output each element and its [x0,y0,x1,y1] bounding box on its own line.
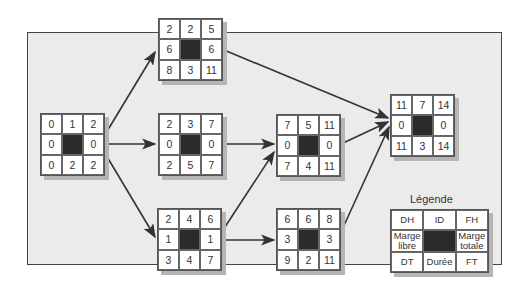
legend-title: Légende [410,193,453,205]
cell-dh: 6 [277,209,298,229]
cell-dt: 8 [159,60,180,80]
cell-dt: 9 [277,250,298,270]
cell-dt: 0 [41,155,62,175]
cell-fh: 11 [319,115,340,135]
cell-marge-totale: 0 [433,115,454,135]
cell-duration-top: 6 [298,209,319,229]
cell-duration-top: 5 [298,115,319,135]
cell-marge-libre: 0 [277,135,298,155]
cell-marge-libre: 0 [159,134,180,154]
cell-marge-libre: 6 [159,39,180,59]
legend-fh: FH [456,210,488,230]
legend-duree: Durée [423,252,455,272]
edge-d-end [341,122,388,144]
cell-duree: 4 [298,156,319,176]
node-a: 2 2 5 6 6 8 3 11 [158,18,223,81]
cell-id [298,135,319,155]
node-c: 2 4 6 1 1 3 4 7 [157,208,222,271]
cell-dh: 2 [159,19,180,39]
cell-id [298,229,319,249]
cell-id [62,134,83,154]
cell-duration-top: 4 [179,209,200,229]
cell-duration-top: 7 [412,95,433,115]
cell-fh: 2 [83,114,104,134]
node-d: 7 5 11 0 0 7 4 11 [276,114,341,177]
cell-marge-libre: 0 [391,115,412,135]
cell-fh: 5 [201,19,222,39]
cell-duree: 3 [180,60,201,80]
cell-ft: 2 [83,155,104,175]
cell-duree: 4 [179,250,200,270]
cell-dt: 7 [277,156,298,176]
edge-a-end [224,50,388,118]
cell-marge-totale: 0 [319,135,340,155]
cell-duration-top: 1 [62,114,83,134]
cell-ft: 14 [433,136,454,156]
cell-fh: 6 [200,209,221,229]
node-b: 2 3 7 0 0 2 5 7 [158,113,223,176]
cell-ft: 7 [201,155,222,175]
cell-marge-totale: 0 [201,134,222,154]
cell-id [179,229,200,249]
cell-duree: 5 [180,155,201,175]
cell-dt: 11 [391,136,412,156]
cell-marge-libre: 1 [158,229,179,249]
legend-marge-totale: Marge totale [456,230,488,252]
cell-dh: 11 [391,95,412,115]
cell-dh: 7 [277,115,298,135]
cell-marge-totale: 1 [200,229,221,249]
cell-dt: 2 [159,155,180,175]
cell-marge-totale: 3 [319,229,340,249]
cell-dt: 3 [158,250,179,270]
legend-dt: DT [391,252,423,272]
legend: DH ID FH Marge libre Marge totale DT Dur… [390,209,489,273]
cell-fh: 7 [201,114,222,134]
cell-duration-top: 3 [180,114,201,134]
legend-marge-libre: Marge libre [391,230,423,252]
legend-id-block [423,230,455,252]
cell-duree: 2 [62,155,83,175]
edge-c-d [223,152,274,230]
cell-ft: 11 [201,60,222,80]
legend-ft: FT [456,252,488,272]
cell-fh: 14 [433,95,454,115]
cell-id [412,115,433,135]
edge-start-a [106,52,155,133]
cell-ft: 11 [319,156,340,176]
cell-dh: 0 [41,114,62,134]
edge-e-end [341,127,389,232]
cell-duree: 2 [298,250,319,270]
node-start: 0 1 2 0 0 0 2 2 [40,113,105,176]
cell-marge-libre: 0 [41,134,62,154]
legend-id: ID [423,210,455,230]
legend-dh: DH [391,210,423,230]
cell-id [180,134,201,154]
cell-duration-top: 2 [180,19,201,39]
cell-id [180,39,201,59]
cell-marge-totale: 6 [201,39,222,59]
node-end: 11 7 14 0 0 11 3 14 [390,94,455,157]
node-e: 6 6 8 3 3 9 2 11 [276,208,341,271]
cell-duree: 3 [412,136,433,156]
cell-fh: 8 [319,209,340,229]
cell-ft: 11 [319,250,340,270]
cell-dh: 2 [159,114,180,134]
cell-dh: 2 [158,209,179,229]
cell-marge-totale: 0 [83,134,104,154]
edge-start-c [106,155,155,237]
cell-marge-libre: 3 [277,229,298,249]
cell-ft: 7 [200,250,221,270]
